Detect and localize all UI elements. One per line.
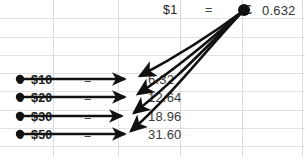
spreadsheet-canvas: $1 = £ 0.632 ● $10 = 6.32 ● $20 = 12.64 …: [0, 0, 305, 157]
rate-arrow-to-row-3: [134, 11, 243, 113]
rate-arrow-to-row-2: [138, 11, 243, 94]
annotation-ink-layer: [0, 0, 305, 157]
rate-anchor-dot: [238, 4, 250, 16]
rate-arrow-to-row-1: [140, 11, 243, 76]
